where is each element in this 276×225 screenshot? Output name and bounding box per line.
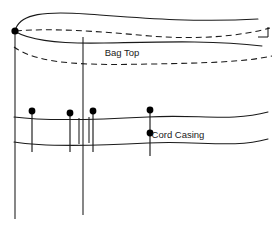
pin-head-icon xyxy=(147,107,154,114)
cord-casing-bottom-curve xyxy=(14,139,268,146)
bag-top-label: Bag Top xyxy=(105,47,140,58)
bag-top-outer-curve xyxy=(16,13,258,28)
bag-cord-casing-diagram: Bag Top Cord Casing xyxy=(0,0,276,225)
cord-casing-opening-group xyxy=(79,117,89,144)
cord-casing-top-curve xyxy=(14,112,268,120)
bag-top-curve-group xyxy=(14,13,272,65)
cord-casing-label: Cord Casing xyxy=(152,129,205,140)
side-seam-group xyxy=(15,31,83,219)
bag-top-lower-dashed-curve xyxy=(14,47,272,64)
pin-head-icon xyxy=(90,108,97,115)
pin-group xyxy=(29,107,154,156)
pin-head-icon xyxy=(29,108,36,115)
bag-top-upper-dashed-curve xyxy=(16,28,270,38)
cord-casing-curve-group xyxy=(14,112,268,146)
pin-head-icon xyxy=(67,110,74,117)
pin-left-1 xyxy=(29,108,36,152)
diagram-canvas: Bag Top Cord Casing xyxy=(0,0,276,225)
bag-top-fold-curve xyxy=(16,32,262,46)
top-left-corner-marker-dot xyxy=(11,27,18,34)
